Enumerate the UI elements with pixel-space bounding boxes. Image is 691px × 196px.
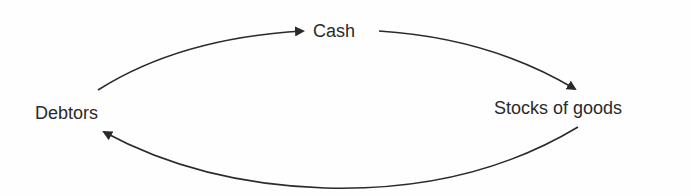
node-cash: Cash [313,22,355,40]
edge-cash-to-stocks [379,31,575,89]
node-stocks-of-goods: Stocks of goods [494,99,622,117]
edge-debtors-to-cash [98,31,303,90]
cash-cycle-diagram: Cash Stocks of goods Debtors [0,0,691,196]
edge-stocks-to-debtors [104,127,578,188]
node-debtors: Debtors [35,104,98,122]
